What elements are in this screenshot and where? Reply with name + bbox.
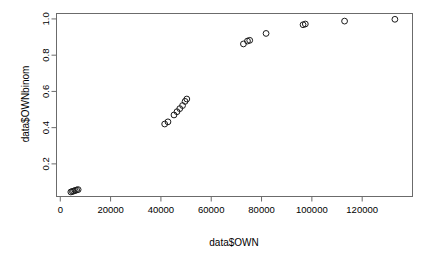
y-tick-label: 0.4 bbox=[40, 121, 51, 134]
x-tick-label: 40000 bbox=[148, 204, 174, 215]
x-tick-label: 120000 bbox=[346, 204, 378, 215]
figure-background bbox=[0, 0, 430, 257]
y-axis-title: data$OWNbinom bbox=[20, 66, 31, 143]
x-tick-label: 60000 bbox=[198, 204, 224, 215]
y-tick-label: 1.0 bbox=[40, 12, 51, 25]
x-tick-label: 20000 bbox=[97, 204, 123, 215]
scatter-plot-figure: 020000400006000080000100000120000 0.20.4… bbox=[0, 0, 430, 257]
x-tick-label: 0 bbox=[58, 204, 63, 215]
plot-canvas: 020000400006000080000100000120000 0.20.4… bbox=[0, 0, 430, 257]
y-tick-label: 0.8 bbox=[40, 49, 51, 62]
x-tick-label: 80000 bbox=[248, 204, 274, 215]
x-tick-label: 100000 bbox=[296, 204, 328, 215]
y-tick-label: 0.2 bbox=[40, 157, 51, 170]
y-tick-label: 0.6 bbox=[40, 85, 51, 98]
x-axis-title: data$OWN bbox=[209, 237, 258, 248]
